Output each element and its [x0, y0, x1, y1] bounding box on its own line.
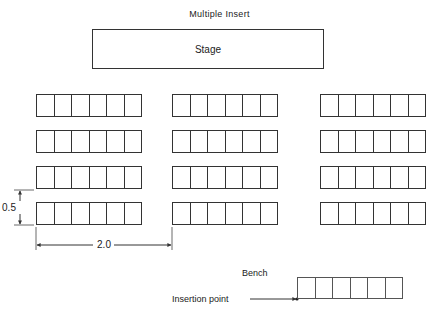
insertion-bench	[297, 277, 403, 299]
dimension-label-vertical: 0.5	[0, 202, 18, 213]
seat	[298, 278, 316, 298]
seat	[333, 278, 351, 298]
dimension-lines	[0, 0, 439, 316]
seat	[368, 278, 386, 298]
seat	[351, 278, 369, 298]
seat	[386, 278, 403, 298]
seat	[316, 278, 334, 298]
bench-label: Bench	[242, 268, 268, 278]
dimension-label-horizontal: 2.0	[94, 239, 114, 250]
insertion-point-label: Insertion point	[172, 294, 229, 304]
